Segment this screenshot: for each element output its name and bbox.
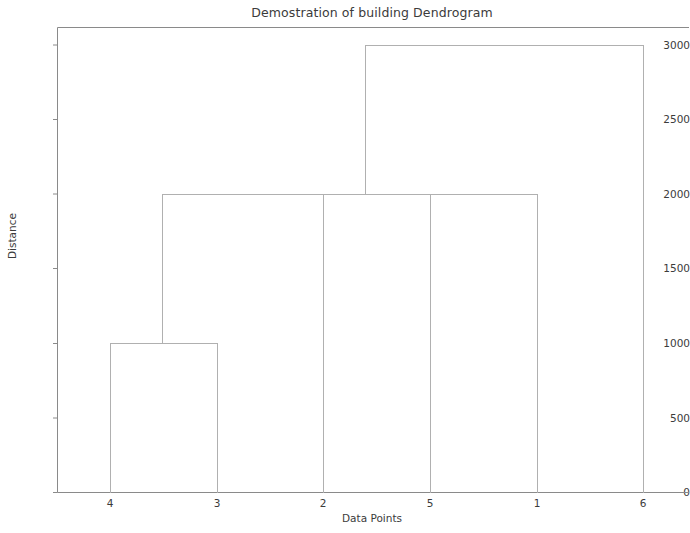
y-tick-marks — [53, 45, 58, 493]
dendrogram-figure: Demostration of building Dendrogram Dist… — [0, 0, 690, 533]
link-1000-4-3 — [111, 344, 218, 493]
dendrogram-links — [111, 46, 644, 493]
x-tick-marks — [111, 487, 644, 493]
axes-frame — [58, 28, 690, 493]
link-2000-cluster — [163, 195, 538, 493]
plot-area — [0, 0, 690, 533]
link-3000-root — [366, 46, 644, 493]
